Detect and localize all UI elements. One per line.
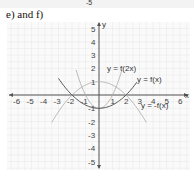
svg-text:-1: -1 <box>81 97 89 106</box>
svg-text:-4: -4 <box>88 144 96 153</box>
svg-text:-5: -5 <box>88 158 96 167</box>
svg-text:4: 4 <box>91 38 96 47</box>
svg-text:2: 2 <box>124 97 129 106</box>
svg-text:-4: -4 <box>40 97 48 106</box>
svg-text:-2: -2 <box>67 97 75 106</box>
graph: -6-5-4-3-2-112345654321-1-2-3-4-5 y = f(… <box>0 0 194 177</box>
label-fx: y = f(x) <box>137 75 162 84</box>
label-f2x: y = f(2x) <box>107 64 136 73</box>
x-axis-label: x <box>185 91 189 100</box>
svg-text:-3: -3 <box>54 97 62 106</box>
svg-text:2: 2 <box>91 64 96 73</box>
svg-text:-5: -5 <box>27 97 35 106</box>
svg-text:-3: -3 <box>88 131 96 140</box>
svg-text:-1: -1 <box>88 104 96 113</box>
svg-text:1: 1 <box>91 78 96 87</box>
svg-text:6: 6 <box>178 97 183 106</box>
label-negfx: y = -f(x) <box>141 101 169 110</box>
svg-text:5: 5 <box>91 25 96 34</box>
svg-text:-6: -6 <box>13 97 21 106</box>
svg-text:1: 1 <box>111 97 116 106</box>
svg-text:3: 3 <box>91 51 96 60</box>
svg-text:-2: -2 <box>88 118 96 127</box>
y-axis-label: y <box>102 20 106 29</box>
